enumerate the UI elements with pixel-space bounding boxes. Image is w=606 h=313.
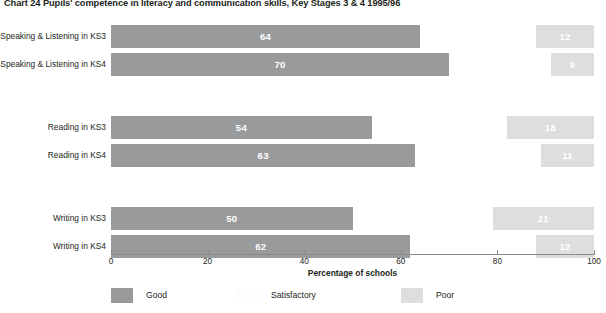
bar-segment-good: 70 xyxy=(111,53,449,76)
bar-row: 6412 xyxy=(111,25,594,48)
bar-segment-poor: 12 xyxy=(536,25,594,48)
x-axis-tick-label: 80 xyxy=(493,257,502,266)
bar-segment-good: 54 xyxy=(111,116,372,139)
y-axis-label: Reading in KS3 xyxy=(0,116,106,139)
x-axis-tick-label: 60 xyxy=(396,257,405,266)
bar-row: 5021 xyxy=(111,207,594,230)
legend-item-satisfactory[interactable]: Satisfactory xyxy=(236,286,316,304)
y-axis-label: Writing in KS3 xyxy=(0,207,106,230)
y-axis-label: Reading in KS4 xyxy=(0,144,106,167)
x-axis-tick-label: 20 xyxy=(203,257,212,266)
x-axis-tick xyxy=(208,250,209,255)
bar-segment-poor: 11 xyxy=(541,144,594,167)
bar-segment-satisfactory xyxy=(372,116,507,139)
legend-swatch-icon xyxy=(236,288,258,303)
bar-value-label: 11 xyxy=(541,144,594,167)
legend-label: Poor xyxy=(436,290,454,300)
bar-value-label: 50 xyxy=(111,207,353,230)
x-axis-tick-label: 100 xyxy=(587,257,601,266)
bar-value-label: 64 xyxy=(111,25,420,48)
x-axis-line xyxy=(111,254,594,255)
bar-value-label: 9 xyxy=(551,53,594,76)
bar-row: 5418 xyxy=(111,116,594,139)
bar-row: 6311 xyxy=(111,144,594,167)
bar-value-label: 21 xyxy=(493,207,594,230)
legend-item-good[interactable]: Good xyxy=(111,286,167,304)
bar-segment-satisfactory xyxy=(353,207,493,230)
bar-value-label: 70 xyxy=(111,53,449,76)
bar-segment-poor: 18 xyxy=(507,116,594,139)
legend-swatch-icon xyxy=(111,288,133,303)
legend-label: Good xyxy=(146,290,167,300)
bar-segment-poor: 9 xyxy=(551,53,594,76)
y-axis-label: Speaking & Listening in KS3 xyxy=(0,25,106,48)
legend-label: Satisfactory xyxy=(271,290,316,300)
bar-segment-satisfactory xyxy=(415,144,541,167)
x-axis-tick xyxy=(111,250,112,255)
bar-value-label: 12 xyxy=(536,25,594,48)
bar-value-label: 63 xyxy=(111,144,415,167)
bar-segment-good: 63 xyxy=(111,144,415,167)
y-axis-label: Writing in KS4 xyxy=(0,235,106,258)
plot-area: 64127095418631150216212 xyxy=(111,22,594,254)
x-axis-title: Percentage of schools xyxy=(111,268,594,278)
bar-segment-good: 64 xyxy=(111,25,420,48)
x-axis-tick xyxy=(401,250,402,255)
legend-swatch-icon xyxy=(401,288,423,303)
chart-container: Chart 24 Pupils' competence in literacy … xyxy=(0,0,606,313)
bar-value-label: 18 xyxy=(507,116,594,139)
x-axis-tick xyxy=(594,250,595,255)
x-axis-tick xyxy=(304,250,305,255)
bar-segment-satisfactory xyxy=(449,53,550,76)
bar-segment-poor: 21 xyxy=(493,207,594,230)
chart-title: Chart 24 Pupils' competence in literacy … xyxy=(4,0,602,8)
y-axis-label: Speaking & Listening in KS4 xyxy=(0,53,106,76)
bar-segment-satisfactory xyxy=(420,25,536,48)
x-axis-tick xyxy=(497,250,498,255)
bar-value-label: 54 xyxy=(111,116,372,139)
legend-item-poor[interactable]: Poor xyxy=(401,286,454,304)
bar-row: 709 xyxy=(111,53,594,76)
bar-segment-good: 50 xyxy=(111,207,353,230)
x-axis-tick-label: 0 xyxy=(109,257,114,266)
x-axis-tick-label: 40 xyxy=(300,257,309,266)
